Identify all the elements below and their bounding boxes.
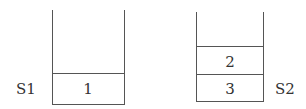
stack-s1-cell-1: 1 (83, 80, 93, 98)
stack-s2-cell-3: 3 (225, 80, 235, 98)
stack-s2: 2 3 S2 (196, 12, 295, 102)
stack-s2-label: S2 (275, 80, 295, 98)
stacks-diagram: 1 S1 2 3 S2 (0, 0, 306, 109)
stack-s1: 1 S1 (16, 10, 125, 105)
stack-s2-cell-2: 2 (225, 53, 235, 71)
stack-s1-label: S1 (16, 80, 36, 98)
